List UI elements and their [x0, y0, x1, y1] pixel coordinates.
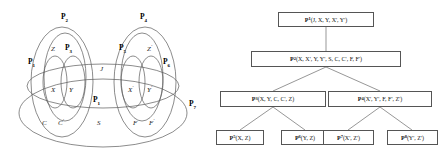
tree-node-leaf1-args: (X, Z)	[235, 135, 250, 141]
tree-node-leaf2-args: (Y, Z)	[301, 135, 315, 141]
tree-node-n4-args: (X', Y', F, F', Z')	[364, 96, 403, 102]
ellipse-P6-Y	[61, 56, 85, 108]
region-label-J: J	[100, 64, 103, 73]
ellipse-P7	[19, 79, 187, 147]
tree-node-leaf1[interactable]: P5(X, Z)	[216, 130, 264, 145]
tree-node-n2[interactable]: P2(X, X', Y, Y', S, C, C', F, F')	[251, 51, 401, 67]
edge-n3-leaf2	[273, 107, 305, 130]
region-label-C: C	[42, 118, 47, 127]
ellipse-P4-inner	[121, 33, 163, 121]
set-label-P1-left: P1	[28, 58, 35, 68]
tree-node-n3-args: (X, Y, C, C', Z)	[258, 96, 294, 102]
edge-n4-leaf4	[380, 107, 412, 130]
tree-node-leaf2[interactable]: P6(Y, Z)	[281, 130, 329, 145]
venn-shapes	[0, 0, 218, 161]
region-label-Xprime: X'	[128, 85, 133, 94]
tree-node-leaf4-args: (Y', Z')	[407, 135, 424, 141]
edge-n2-n3	[273, 67, 326, 91]
edge-n3-leaf1	[240, 107, 273, 130]
set-label-P5: P5	[119, 44, 126, 54]
region-label-Yprime: Y'	[147, 85, 152, 94]
tree-node-leaf3[interactable]: P7(X', Z')	[323, 130, 374, 145]
ellipse-Yprime	[139, 56, 163, 108]
tree-node-n4[interactable]: P4(X', Y', F, F', Z')	[328, 91, 432, 107]
region-label-S: S	[97, 118, 101, 127]
set-label-P4: P4	[140, 13, 147, 23]
tree-node-root[interactable]: P1(J, X, Y, X', Y')	[278, 12, 374, 27]
tree-node-root-args: (J, X, Y, X', Y')	[311, 17, 348, 23]
ellipse-P5-X	[43, 56, 67, 108]
region-label-Z: Z	[51, 44, 55, 53]
set-label-P1-center: P1	[93, 96, 100, 106]
edge-n4-leaf3	[348, 107, 380, 130]
edge-n2-n4	[326, 67, 380, 91]
euler-venn-diagram: Z Z' J X Y X' Y' C C' S F F' P2 P4 P3 P1…	[0, 0, 218, 161]
tree-node-n2-args: (X, X', Y, Y', S, C, C', F, F')	[296, 56, 362, 62]
region-label-Cprime: C'	[58, 118, 64, 127]
set-label-P3: P3	[65, 44, 72, 54]
set-label-P6: P6	[163, 58, 170, 68]
ellipse-Xprime	[121, 56, 145, 108]
tree-node-n3[interactable]: P3(X, Y, C, C', Z)	[220, 91, 326, 107]
region-label-Zprime: Z'	[147, 44, 152, 53]
tree-diagram: P1(J, X, Y, X', Y') P2(X, X', Y, Y', S, …	[218, 0, 435, 161]
region-label-X: X	[51, 85, 55, 94]
region-label-Fprime: F'	[149, 118, 154, 127]
tree-node-leaf4[interactable]: P8(Y', Z')	[387, 130, 438, 145]
set-label-P2: P2	[61, 13, 68, 23]
tree-node-leaf3-args: (X', Z')	[343, 135, 360, 141]
region-label-F: F	[133, 118, 137, 127]
region-label-Y: Y	[69, 85, 73, 94]
set-label-P7: P7	[189, 100, 196, 110]
